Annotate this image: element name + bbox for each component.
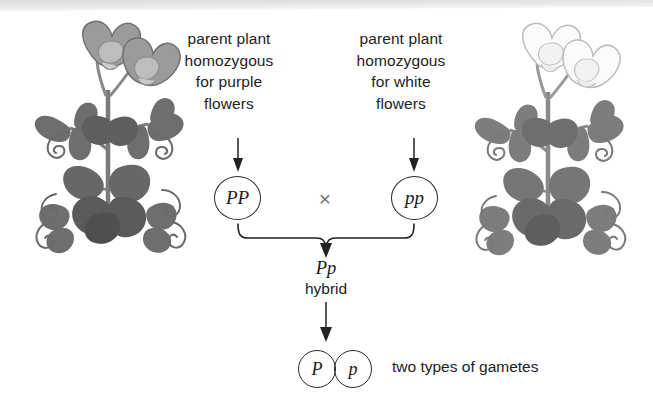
hybrid-text-label: hybrid — [286, 280, 366, 298]
parent-right-caption: parent plant homozygous for white flower… — [342, 28, 460, 114]
hybrid-genotype-label: Pp — [296, 258, 356, 279]
cross-symbol: × — [310, 184, 340, 214]
cross-brace — [238, 224, 414, 247]
brace-arrowhead — [320, 243, 332, 258]
genotype-circle-PP: PP — [214, 176, 261, 220]
arrow-to-parent-left-genotype — [233, 138, 243, 172]
genetics-diagram: parent plant homozygous for purple flowe… — [0, 0, 653, 398]
parent-left-caption: parent plant homozygous for purple flowe… — [170, 28, 288, 114]
arrow-to-parent-right-genotype — [409, 138, 419, 172]
gamete-circle-p: p — [334, 350, 372, 388]
genotype-circle-pp: pp — [391, 176, 438, 220]
arrow-to-gametes — [320, 302, 332, 342]
gametes-caption: two types of gametes — [392, 358, 538, 376]
gamete-circle-P: P — [298, 350, 336, 388]
scan-edge-artifact — [0, 0, 653, 11]
